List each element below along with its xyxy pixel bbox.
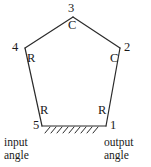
input-angle-caption: input angle (4, 136, 29, 162)
joint-number-5: 5 (33, 119, 39, 132)
link-4-3 (25, 17, 73, 48)
link-3-2 (73, 17, 120, 48)
linkage-diagram: 3 4 2 5 1 C R C R R input angle output a… (0, 0, 151, 167)
hatch-mark (87, 127, 92, 133)
joint-type-1: R (98, 104, 106, 117)
joint-number-4: 4 (12, 41, 18, 54)
hatch-mark (81, 127, 86, 133)
joint-number-2: 2 (124, 41, 130, 54)
joint-number-1: 1 (110, 119, 116, 132)
joint-type-5: R (40, 104, 48, 117)
hatch-mark (45, 127, 50, 133)
hatch-mark (57, 127, 62, 133)
joint-type-2: C (110, 52, 118, 65)
ground-hatching (45, 127, 98, 133)
joint-type-4: R (27, 52, 35, 65)
hatch-mark (75, 127, 80, 133)
joint-type-3: C (68, 19, 76, 32)
output-angle-caption: output angle (104, 136, 133, 162)
hatch-mark (63, 127, 68, 133)
hatch-mark (69, 127, 74, 133)
joint-number-3: 3 (68, 2, 74, 15)
hatch-mark (93, 127, 98, 133)
hatch-mark (51, 127, 56, 133)
